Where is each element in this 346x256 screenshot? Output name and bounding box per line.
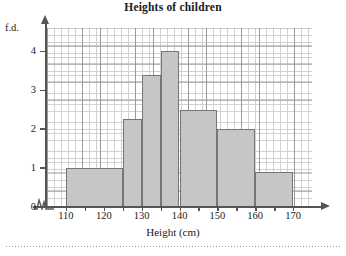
y-axis-tick-label: 4 <box>22 46 36 57</box>
histogram-bar <box>217 129 255 207</box>
plot-area <box>47 28 312 207</box>
y-axis-tick <box>40 128 46 129</box>
axis-break-zigzag-icon <box>33 196 55 210</box>
histogram-bar <box>161 51 180 207</box>
x-axis-tick-label: 130 <box>125 210 159 221</box>
y-axis-tick-label: 3 <box>22 85 36 96</box>
footer-divider <box>6 246 340 247</box>
histogram-figure: Heights of children f.d. 01234 110120130… <box>0 0 346 256</box>
y-axis-tick <box>40 167 46 168</box>
histogram-bar <box>142 75 161 207</box>
x-axis-tick-label: 160 <box>238 210 272 221</box>
chart-title: Heights of children <box>0 1 346 13</box>
x-axis-tick-label: 110 <box>49 210 83 221</box>
y-axis-tick <box>40 51 46 52</box>
x-axis-tick-label: 120 <box>87 210 121 221</box>
bars-group <box>47 28 312 207</box>
histogram-bar <box>180 110 218 207</box>
histogram-bar <box>123 119 142 207</box>
histogram-bar <box>255 172 293 207</box>
x-axis-tick-label: 150 <box>200 210 234 221</box>
y-axis-arrow-icon <box>41 15 49 24</box>
y-axis-tick-label: 1 <box>22 163 36 174</box>
histogram-bar <box>66 168 123 207</box>
x-axis-title: Height (cm) <box>0 226 346 238</box>
x-axis-tick-label: 140 <box>163 210 197 221</box>
x-axis-arrow-icon <box>321 202 330 210</box>
y-axis-tick <box>40 90 46 91</box>
y-axis-tick-label: 0 <box>22 202 36 213</box>
x-axis-tick-label: 170 <box>276 210 310 221</box>
x-axis-line <box>33 206 323 208</box>
y-axis-tick-label: 2 <box>22 124 36 135</box>
y-axis-tick <box>40 206 46 207</box>
y-axis-label: f.d. <box>5 22 19 33</box>
